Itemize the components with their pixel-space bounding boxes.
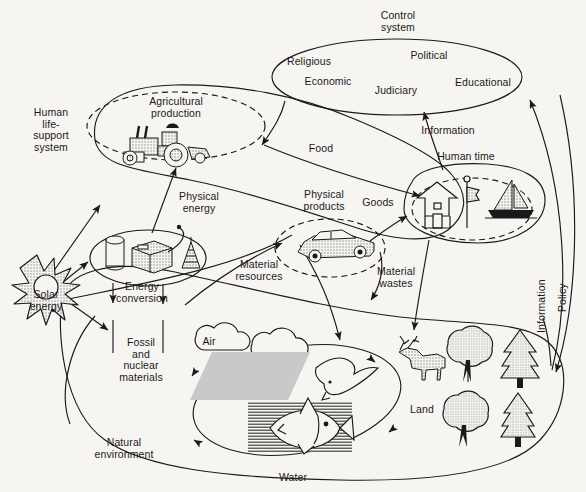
diagram-canvas — [0, 0, 586, 492]
deciduous-tree-icon-2 — [443, 391, 489, 447]
fossil-and-nuclear-materials-label: Fossil and nuclear materials — [105, 337, 177, 383]
energy-conversion-label: Energy conversion — [111, 281, 173, 304]
flag-icon — [464, 176, 479, 228]
physical-energy-label: Physical energy — [173, 191, 225, 214]
control-system-label: Control system — [368, 10, 428, 33]
tractor-icon — [123, 124, 210, 167]
material-resources-label: Material resources — [228, 259, 290, 282]
food-label: Food — [304, 143, 338, 155]
oil-tank-icon — [106, 236, 124, 270]
flow-policy-vertical — [556, 95, 575, 372]
physical-products-label: Physical products — [296, 189, 352, 212]
agricultural-production-label: Agricultural production — [133, 96, 219, 119]
solar-energy-label: Solar energy — [22, 289, 70, 312]
land-label: Land — [405, 404, 439, 416]
car-icon — [298, 230, 374, 262]
generator-icon — [132, 225, 184, 273]
deer-icon — [399, 336, 445, 380]
flow-environment-loop-left — [65, 316, 95, 424]
human-life-support-system-label: Human life- support system — [22, 107, 80, 153]
policy-label: Policy — [557, 283, 569, 312]
air-region — [190, 352, 310, 400]
water-label: Water — [273, 472, 313, 484]
judiciary-label: Judiciary — [370, 85, 422, 97]
bird-icon — [315, 358, 378, 400]
flow-control-to-lifesupport — [262, 101, 285, 145]
flow-solar-to-lifesupport — [53, 205, 100, 272]
information-top-label: Information — [414, 125, 482, 137]
political-label: Political — [405, 50, 453, 62]
educational-label: Educational — [450, 77, 516, 89]
goods-label: Goods — [358, 197, 398, 209]
conifer-tree-icon-2 — [501, 393, 535, 447]
information-side-label: Information — [536, 279, 548, 333]
oil-derrick-icon — [182, 237, 200, 268]
material-wastes-label: Material wastes — [369, 266, 423, 289]
economic-label: Economic — [300, 76, 356, 88]
human-time-label: Human time — [430, 151, 502, 163]
deciduous-tree-icon — [447, 326, 493, 382]
religious-label: Religious — [281, 56, 337, 68]
flow-goods — [370, 216, 407, 241]
natural-environment-label: Natural environment — [82, 437, 166, 460]
house-icon — [417, 182, 457, 228]
air-label: Air — [196, 336, 222, 348]
conifer-tree-icon — [501, 330, 539, 388]
systems-diagram: Control system Religious Political Econo… — [0, 0, 586, 492]
